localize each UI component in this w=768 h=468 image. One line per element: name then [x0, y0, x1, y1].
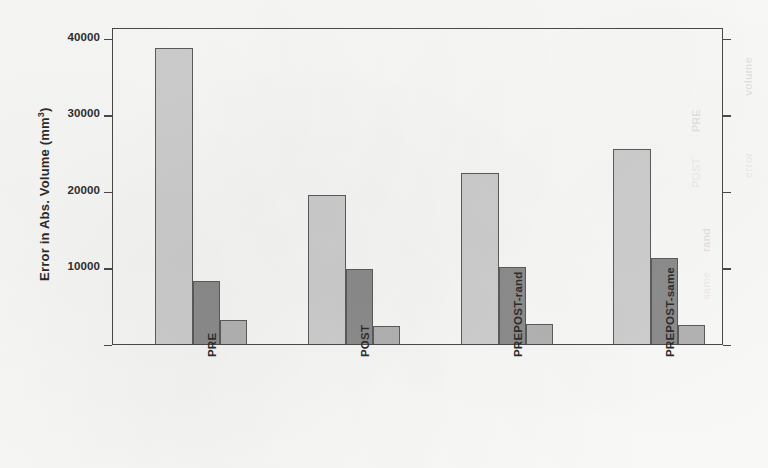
y-axis-baseline-tick-right — [723, 345, 731, 346]
plot-area — [112, 28, 723, 345]
x-axis-category-label: PRE — [206, 333, 218, 357]
y-axis-baseline-tick — [104, 345, 112, 346]
y-axis-tick-mark-right — [723, 115, 731, 116]
y-axis-tick-labels: 40000300002000010000 — [24, 0, 100, 468]
x-axis-category-label: POST — [359, 325, 371, 357]
bar — [155, 48, 193, 344]
bar — [373, 326, 400, 344]
bar — [613, 149, 651, 344]
y-axis-tick-mark — [104, 192, 112, 193]
y-axis-tick-mark — [104, 268, 112, 269]
y-axis-tick-label: 40000 — [38, 31, 100, 43]
bar — [678, 325, 705, 344]
y-axis-tick-mark-right — [723, 268, 731, 269]
x-axis-category-label: PREPOST-rand — [512, 272, 524, 357]
bar-chart: Error in Abs. Volume (mm3) 4000030000200… — [0, 0, 768, 468]
bleedthrough-text: error — [742, 152, 754, 178]
bar — [526, 324, 553, 344]
y-axis-tick-mark-right — [723, 192, 731, 193]
y-axis-tick-label: 20000 — [38, 184, 100, 196]
x-axis-category-label: PREPOST-same — [664, 267, 676, 357]
y-axis-tick-label: 30000 — [38, 107, 100, 119]
y-axis-tick-mark — [104, 115, 112, 116]
y-axis-tick-label: 10000 — [38, 260, 100, 272]
bleedthrough-text: volume — [742, 57, 754, 96]
y-axis-tick-mark — [104, 39, 112, 40]
bar — [308, 195, 346, 344]
y-axis-tick-mark-right — [723, 39, 731, 40]
bar — [461, 173, 499, 344]
bar — [220, 320, 247, 344]
